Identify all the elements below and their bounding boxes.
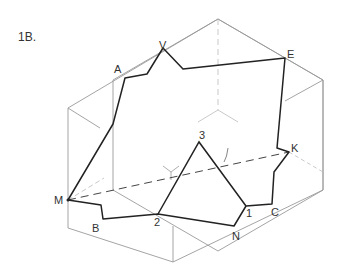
label-a: A <box>114 64 121 75</box>
cube-edge-top-right <box>218 19 323 80</box>
label-c: C <box>271 207 279 218</box>
figure-title: 1B. <box>18 30 36 44</box>
cube-section-diagram <box>0 0 341 272</box>
diagram-canvas: 1B. A V E K C 1 N 2 B M 3 <box>0 0 341 272</box>
section-polygon <box>68 48 289 226</box>
label-3: 3 <box>199 130 205 141</box>
hidden-edge-to-corner <box>289 152 323 172</box>
hidden-edge-m <box>68 178 104 200</box>
cube-outline-left <box>68 19 323 262</box>
hidden-edge-right <box>218 110 238 122</box>
vertex-m-dot <box>67 199 70 202</box>
label-2: 2 <box>154 217 160 228</box>
label-k: K <box>291 143 298 154</box>
label-v: V <box>159 40 166 51</box>
cube-edge-inner-left <box>68 108 100 128</box>
label-e: E <box>287 49 294 60</box>
cube-edge-inner-right <box>285 80 323 101</box>
label-n: N <box>232 231 240 242</box>
label-b: B <box>92 223 99 234</box>
tick-mark <box>224 148 228 162</box>
label-1: 1 <box>246 208 252 219</box>
label-m: M <box>54 195 63 206</box>
hidden-edge-left <box>198 110 218 122</box>
dashed-line-m-k <box>68 152 289 200</box>
